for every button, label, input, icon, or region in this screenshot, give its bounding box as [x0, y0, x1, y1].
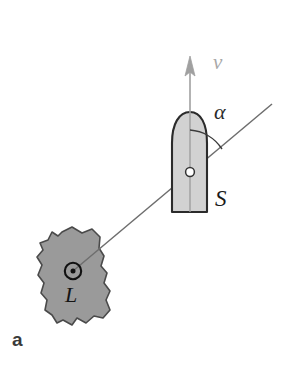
ship-label: S	[215, 187, 227, 210]
navigation-diagram	[0, 0, 290, 367]
ship-pivot-marker	[186, 168, 195, 177]
figure-panel: v α S L a	[0, 0, 290, 367]
panel-label: a	[12, 330, 23, 349]
landmass-shape	[37, 227, 110, 325]
angle-label-alpha: α	[214, 101, 226, 123]
landmark-label: L	[65, 284, 77, 306]
velocity-label: v	[213, 52, 222, 73]
landmark-marker-dot	[71, 269, 76, 274]
